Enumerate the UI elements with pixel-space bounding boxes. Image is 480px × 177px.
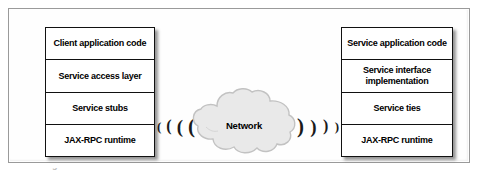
client-layer-service-access-layer: Service access layer [46, 60, 154, 92]
figure-container: Client application code Service access l… [0, 0, 480, 177]
client-layer-label: Service stubs [72, 103, 127, 114]
figure-frame: Client application code Service access l… [8, 8, 470, 163]
client-layer-service-stubs: Service stubs [46, 93, 154, 125]
network-cloud: Network [190, 87, 298, 161]
service-layer-label: Service interface implementation [363, 65, 431, 86]
signal-arcs-right: ) ) ) ) [297, 113, 339, 139]
caption-fragment-text: Figure JAX-RPC [44, 168, 304, 170]
client-stack: Client application code Service access l… [45, 27, 155, 157]
caption-fragment: Figure JAX-RPC [44, 168, 304, 177]
service-layer-application-code: Service application code [342, 28, 452, 60]
service-layer-label: JAX-RPC runtime [361, 135, 432, 146]
signal-arc-icon: ) [323, 118, 328, 134]
network-label-wrapper: Network [190, 87, 298, 161]
service-stack: Service application code Service interfa… [341, 27, 453, 157]
signal-arc-icon: ) [335, 120, 339, 133]
service-layer-label: Service application code [347, 38, 447, 49]
signal-arc-icon: ( [177, 117, 183, 136]
signal-arc-icon: ( [157, 120, 161, 133]
client-layer-label: JAX-RPC runtime [64, 135, 135, 146]
signal-arc-icon: ) [297, 116, 304, 137]
network-label: Network [226, 120, 262, 131]
signal-arc-icon: ) [310, 117, 316, 136]
client-layer-label: Client application code [54, 38, 147, 49]
client-layer-application-code: Client application code [46, 28, 154, 60]
service-layer-label: Service ties [373, 103, 420, 114]
client-layer-label: Service access layer [58, 71, 141, 82]
client-layer-jaxrpc-runtime: JAX-RPC runtime [46, 125, 154, 156]
service-layer-service-ties: Service ties [342, 93, 452, 125]
service-layer-jaxrpc-runtime: JAX-RPC runtime [342, 125, 452, 156]
service-layer-interface-implementation: Service interface implementation [342, 60, 452, 92]
signal-arc-icon: ( [166, 118, 171, 134]
